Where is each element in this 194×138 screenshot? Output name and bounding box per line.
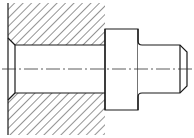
section-drawing bbox=[0, 0, 194, 138]
housing-lower-section bbox=[8, 93, 105, 135]
housing-upper-section bbox=[8, 3, 105, 45]
shaft-collar bbox=[105, 29, 138, 110]
